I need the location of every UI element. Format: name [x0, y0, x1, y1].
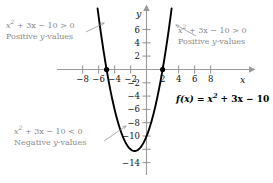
annotation-bottom-expression: x2 + 3x − 10 < 0 [14, 127, 83, 136]
annotation-right-subtitle: Positive y-values [178, 37, 247, 48]
svg-text:−8: −8 [76, 74, 89, 84]
graph-figure: −8 −6 −4 −2 2 4 6 8 6 4 2 −2 −4 −6 −8 −1… [0, 0, 273, 183]
annotation-bottom-negative: x2 + 3x − 10 < 0 Negative y-values [14, 127, 86, 148]
y-tick-labels: 6 4 2 −2 −4 −6 −8 −10 −14 [122, 25, 140, 168]
svg-text:−14: −14 [122, 158, 140, 168]
annotation-right-expression: x2 + 3x − 10 > 0 [178, 26, 247, 35]
annotation-right-positive: x2 + 3x − 10 > 0 Positive y-values [178, 26, 247, 47]
svg-text:−8: −8 [127, 118, 140, 128]
svg-text:8: 8 [208, 74, 213, 84]
svg-text:6: 6 [192, 74, 197, 84]
svg-text:−4: −4 [108, 74, 121, 84]
svg-text:−2: −2 [127, 78, 140, 88]
svg-text:2: 2 [135, 51, 140, 61]
svg-text:4: 4 [135, 38, 140, 48]
root-point-negative-five [104, 67, 109, 72]
svg-text:6: 6 [135, 25, 140, 35]
root-point-two [160, 67, 165, 72]
svg-text:−4: −4 [127, 91, 140, 101]
svg-text:4: 4 [176, 74, 181, 84]
annotation-left-positive: x2 + 3x − 10 > 0 Positive y-values [6, 21, 75, 42]
function-equation-label: f(x) = x2 + 3x − 10 [176, 94, 269, 104]
annotation-left-subtitle: Positive y-values [6, 32, 75, 43]
annotation-left-expression: x2 + 3x − 10 > 0 [6, 21, 75, 30]
y-axis-label: y [135, 8, 142, 19]
annotation-bottom-subtitle: Negative y-values [14, 138, 86, 149]
x-axis-label: x [240, 74, 246, 85]
svg-text:−6: −6 [127, 104, 140, 114]
svg-text:−6: −6 [92, 74, 105, 84]
